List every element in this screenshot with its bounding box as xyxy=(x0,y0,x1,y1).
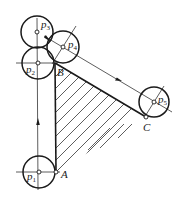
center-p3 xyxy=(35,30,39,34)
up-arrow-icon xyxy=(36,118,40,125)
label-p2: p2 xyxy=(25,63,36,77)
right-arrow-icon xyxy=(115,78,122,81)
label-p3: p3 xyxy=(40,18,51,32)
circles xyxy=(21,16,169,188)
labels: p1 p2 p3 p4 p5 A B C xyxy=(25,18,168,184)
point-markers xyxy=(35,30,156,174)
label-point-c: C xyxy=(143,121,151,133)
workspace-boundary xyxy=(55,63,146,172)
hatched-workspace-region xyxy=(56,56,166,184)
center-p5 xyxy=(152,100,156,104)
center-p2 xyxy=(36,61,40,65)
center-p4 xyxy=(61,45,65,49)
label-p5: p5 xyxy=(157,93,168,107)
mechanism-diagram: p1 p2 p3 p4 p5 A B C xyxy=(0,0,190,208)
hatch-extension xyxy=(88,124,132,150)
label-point-a: A xyxy=(60,168,68,180)
center-p1 xyxy=(37,170,41,174)
label-p4: p4 xyxy=(67,38,78,52)
point-a xyxy=(54,170,58,174)
point-c xyxy=(144,115,148,119)
guide-lines xyxy=(16,18,172,190)
label-point-b: B xyxy=(57,66,64,78)
